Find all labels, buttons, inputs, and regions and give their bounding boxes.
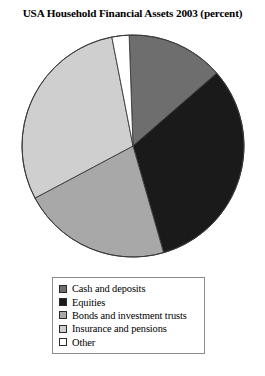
legend-label: Cash and deposits xyxy=(72,283,145,294)
chart-legend: Cash and deposits Equities Bonds and inv… xyxy=(52,277,205,354)
pie-chart-figure: USA Household Financial Assets 2003 (per… xyxy=(0,0,265,376)
pie-chart-area xyxy=(0,0,265,270)
legend-item[interactable]: Bonds and investment trusts xyxy=(59,309,199,322)
legend-swatch-equities xyxy=(59,298,67,306)
pie-slice-group xyxy=(22,35,244,257)
legend-label: Insurance and pensions xyxy=(72,323,167,334)
legend-swatch-cash-and-deposits xyxy=(59,285,67,293)
legend-label: Equities xyxy=(72,297,105,308)
legend-item[interactable]: Equities xyxy=(59,295,199,308)
legend-item[interactable]: Cash and deposits xyxy=(59,282,199,295)
pie-svg xyxy=(0,0,265,270)
legend-swatch-bonds-and-investment-trusts xyxy=(59,311,67,319)
legend-swatch-insurance-and-pensions xyxy=(59,325,67,333)
legend-item[interactable]: Insurance and pensions xyxy=(59,322,199,335)
legend-swatch-other xyxy=(59,338,67,346)
legend-item[interactable]: Other xyxy=(59,336,199,349)
legend-label: Other xyxy=(72,337,95,348)
legend-label: Bonds and investment trusts xyxy=(72,310,187,321)
